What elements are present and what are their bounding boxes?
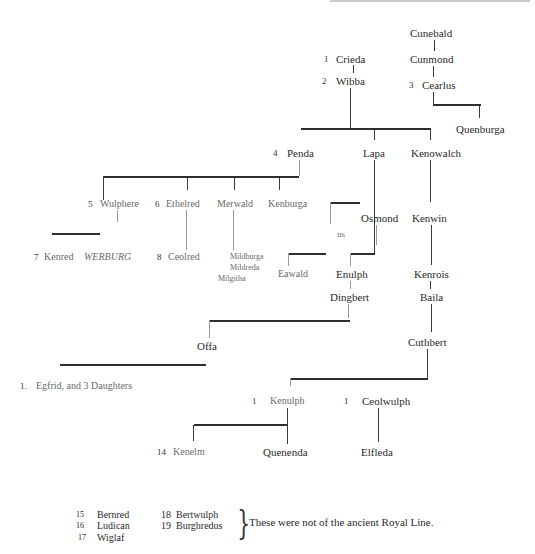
connector — [374, 160, 375, 255]
node-number: 1 — [344, 395, 349, 407]
node-crieda: Crieda — [336, 53, 365, 65]
connector — [234, 178, 235, 190]
connector — [330, 202, 360, 204]
connector — [193, 425, 194, 441]
connector — [288, 253, 289, 266]
node-number: 1 — [252, 395, 257, 407]
footnote-num: 19 — [161, 520, 171, 532]
header-remnant — [330, 0, 530, 2]
node-number: 7 — [34, 251, 39, 263]
connector — [433, 66, 434, 77]
node-baila: Baila — [420, 291, 443, 303]
connector — [194, 424, 287, 426]
node-dingbert: Dingbert — [330, 291, 369, 303]
node-number: 6 — [155, 198, 160, 210]
node-quenenda: Quenenda — [263, 446, 308, 458]
connector — [287, 408, 288, 444]
node-kenowalch: Kenowalch — [411, 147, 461, 159]
node-kenelm: Kenelm — [173, 446, 205, 458]
node-number: 1 — [324, 53, 329, 65]
node-wibba: Wibba — [336, 75, 365, 87]
footnote-name: Ludican — [97, 520, 130, 532]
footnote-name: Wiglaf — [97, 532, 124, 544]
node-number: 4 — [273, 147, 278, 159]
node-cuthbert: Cuthbert — [408, 336, 447, 348]
connector — [291, 378, 428, 380]
footnote-num: 17 — [78, 532, 86, 544]
node-offa: Offa — [197, 340, 217, 352]
node-number: 14 — [157, 446, 166, 458]
node-ceolwulph: Ceolwulph — [362, 395, 410, 407]
node-wulphere: Wulphere — [100, 198, 139, 210]
connector — [350, 88, 351, 128]
connector — [374, 130, 375, 140]
node-number: 8 — [157, 251, 162, 263]
node-cunmond: Cunmond — [410, 53, 453, 65]
connector — [187, 178, 188, 190]
connector — [350, 253, 351, 266]
connector — [301, 128, 431, 130]
node-kenburga: Kenburga — [268, 198, 307, 210]
node-ethelred: Ethelred — [166, 198, 200, 210]
node-cearlus: Cearlus — [422, 79, 456, 91]
connector — [431, 304, 432, 332]
connector — [479, 105, 480, 118]
node-eawald: Eawald — [278, 268, 308, 280]
node-number: 3 — [409, 79, 414, 91]
footnote-num: 16 — [76, 520, 84, 532]
node-werburg: WERBURG — [84, 251, 131, 263]
connector — [233, 210, 234, 250]
connector — [350, 281, 351, 289]
connector — [117, 210, 118, 222]
node-merwald: Merwald — [217, 198, 253, 210]
node-us: us — [337, 228, 345, 240]
connector — [299, 160, 300, 176]
connector — [427, 349, 428, 379]
connector — [52, 233, 100, 235]
node-milgitha: Milgitha — [218, 273, 246, 285]
connector — [350, 253, 375, 255]
node-kenwin: Kenwin — [412, 212, 447, 224]
node-kenrois: Kenrois — [414, 268, 449, 280]
node-kenulph: Kenulph — [270, 395, 304, 407]
footnote-note: These were not of the ancient Royal Line… — [249, 516, 434, 528]
connector — [288, 253, 326, 255]
connector — [434, 40, 435, 51]
connector — [430, 130, 431, 140]
connector — [433, 104, 481, 106]
node-cunebald: Cunebald — [410, 27, 452, 39]
node-number: 1. — [20, 380, 27, 392]
connector — [210, 320, 350, 322]
node-elfleda: Elfleda — [361, 446, 393, 458]
footnote-name: Burghredus — [176, 520, 222, 532]
node-ceolred: Ceolred — [168, 251, 200, 263]
connector — [60, 364, 206, 366]
node-kenred: Kenred — [44, 251, 73, 263]
node-number: 2 — [322, 75, 327, 87]
node-lapa: Lapa — [363, 147, 385, 159]
connector — [378, 408, 379, 442]
connector — [430, 160, 431, 202]
connector — [348, 304, 349, 318]
node-number: 5 — [88, 198, 93, 210]
connector — [376, 225, 377, 245]
connector — [209, 320, 210, 338]
connector — [430, 281, 431, 289]
connector — [290, 378, 291, 386]
connector — [431, 225, 432, 265]
node-penda: Penda — [287, 147, 314, 159]
connector — [353, 65, 354, 73]
node-egfrid: Egfrid, and 3 Daughters — [36, 380, 132, 392]
connector — [103, 176, 104, 200]
node-osmond: Osmond — [361, 212, 398, 224]
connector — [279, 178, 280, 190]
node-quenburga: Quenburga — [456, 123, 505, 135]
connector — [103, 176, 299, 178]
node-enulph: Enulph — [336, 268, 368, 280]
connector — [186, 210, 187, 250]
connector — [330, 202, 331, 224]
